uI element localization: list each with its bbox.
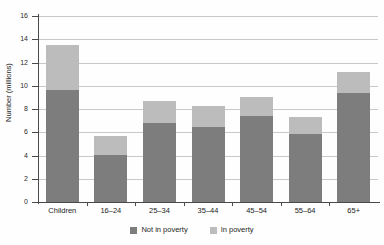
y-axis-tick: [32, 63, 38, 64]
chart-legend: Not in povertyIn poverty: [0, 226, 384, 234]
bar-segment-in-poverty[interactable]: [240, 97, 273, 116]
y-axis-tick-label: 4: [0, 152, 28, 159]
plot-area: [38, 16, 378, 202]
bar-segment-not-in-poverty[interactable]: [46, 90, 79, 202]
x-axis-label-children: Children: [38, 206, 87, 215]
bar-16-24[interactable]: [94, 16, 127, 202]
legend-swatch-icon: [210, 227, 217, 234]
bar-segment-not-in-poverty[interactable]: [192, 127, 225, 202]
bar-25-34[interactable]: [143, 16, 176, 202]
y-axis-tick: [32, 132, 38, 133]
legend-item-in-poverty[interactable]: In poverty: [210, 226, 254, 234]
bar-segment-in-poverty[interactable]: [143, 101, 176, 123]
bar-segment-not-in-poverty[interactable]: [94, 155, 127, 202]
y-axis-tick-label: 16: [0, 12, 28, 19]
y-axis-tick: [32, 86, 38, 87]
bar-children[interactable]: [46, 16, 79, 202]
bar-segment-in-poverty[interactable]: [192, 106, 225, 128]
y-axis-line: [38, 14, 39, 204]
y-axis-tick: [32, 179, 38, 180]
bar-segment-in-poverty[interactable]: [289, 117, 322, 134]
bar-65[interactable]: [337, 16, 370, 202]
legend-label: In poverty: [221, 226, 254, 234]
x-axis-label-16-24: 16–24: [87, 206, 136, 215]
x-axis-label-55-64: 55–64: [281, 206, 330, 215]
legend-swatch-icon: [130, 227, 137, 234]
bar-segment-not-in-poverty[interactable]: [289, 134, 322, 202]
bar-segment-in-poverty[interactable]: [337, 72, 370, 93]
x-axis-label-45-54: 45–54: [232, 206, 281, 215]
bar-segment-in-poverty[interactable]: [46, 45, 79, 90]
x-axis-label-65: 65+: [329, 206, 378, 215]
y-axis-tick: [32, 109, 38, 110]
y-axis-tick-label: 2: [0, 175, 28, 182]
bar-35-44[interactable]: [192, 16, 225, 202]
bar-45-54[interactable]: [240, 16, 273, 202]
legend-item-not-in-poverty[interactable]: Not in poverty: [130, 226, 187, 234]
y-axis-tick: [32, 16, 38, 17]
bar-segment-not-in-poverty[interactable]: [240, 116, 273, 202]
bar-segment-in-poverty[interactable]: [94, 136, 127, 155]
bar-segment-not-in-poverty[interactable]: [337, 93, 370, 202]
legend-label: Not in poverty: [141, 226, 187, 234]
y-axis-tick: [32, 39, 38, 40]
y-axis-tick: [32, 202, 38, 203]
x-axis-label-25-34: 25–34: [135, 206, 184, 215]
stacked-bar-chart: 0246810121416 Children16–2425–3435–4445–…: [0, 0, 384, 245]
y-axis-tick: [32, 156, 38, 157]
y-axis-tick-label: 0: [0, 198, 28, 205]
bar-55-64[interactable]: [289, 16, 322, 202]
bar-segment-not-in-poverty[interactable]: [143, 123, 176, 202]
x-axis-label-35-44: 35–44: [184, 206, 233, 215]
y-axis-title: Number (millions): [4, 33, 13, 153]
